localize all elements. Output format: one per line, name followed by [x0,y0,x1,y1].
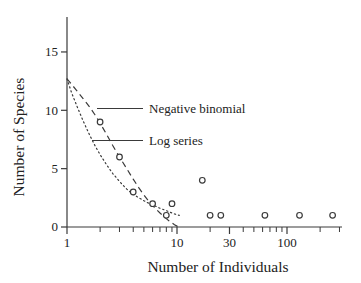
axes [67,17,342,227]
data-point [207,213,213,219]
chart-canvas: 05101511030100Negative binomialLog serie… [0,0,361,283]
x-tick-label: 100 [277,235,297,250]
y-tick-label: 10 [45,103,58,118]
data-point [150,201,156,207]
y-tick-label: 15 [45,44,58,59]
x-tick-label: 30 [223,235,236,250]
y-tick-label: 0 [52,219,59,234]
data-point [164,213,170,219]
y-tick-label: 5 [52,161,59,176]
y-axis-title: Number of Species [10,78,27,197]
x-axis-title: Number of Individuals [147,258,288,275]
data-point [200,178,206,184]
data-point [169,201,175,207]
species-abundance-figure: 05101511030100Negative binomialLog serie… [0,0,361,283]
x-tick-label: 1 [64,235,71,250]
x-axis-ticks: 11030100 [64,227,340,250]
data-point [117,154,123,160]
data-point [297,213,303,219]
data-point [218,213,224,219]
log-series-label: Log series [149,133,203,148]
scatter-points [97,119,335,218]
x-tick-label: 10 [171,235,184,250]
data-point [130,189,136,195]
data-point [262,213,268,219]
negative-binomial-label: Negative binomial [149,101,246,116]
data-point [330,213,336,219]
y-axis-ticks: 051015 [45,44,67,234]
data-point [97,119,103,125]
